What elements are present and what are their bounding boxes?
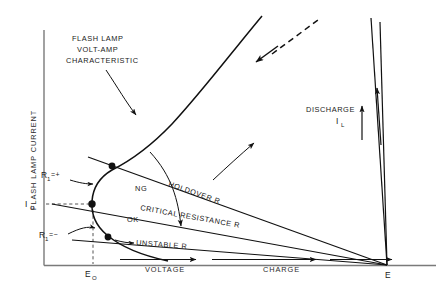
title-annotation: FLASH LAMP VOLT-AMP CHARACTERISTIC [66,34,139,65]
discharge-annotation: DISCHARGE I L [306,105,355,128]
discharge-current-base: I [336,116,339,126]
x-axis-endpoint-label: E [385,270,391,280]
e0-subscript: O [92,275,97,281]
discharge-line-group [362,18,387,265]
r1-positive-relation: =+ [51,171,60,178]
va-curve-dashed-extension [272,20,318,54]
title-line-3: CHARACTERISTIC [66,56,139,65]
upward-trend-arrow [213,143,254,180]
x-axis-label-voltage: VOLTAGE [145,265,185,274]
critical-resistance-load-line [52,204,387,265]
r1-negative-relation: =− [49,231,58,238]
title-line-1: FLASH LAMP [72,34,124,43]
flash-lamp-volt-amp-diagram: FLASH LAMP VOLT-AMP CHARACTERISTIC FLASH… [0,0,440,289]
discharge-line-outer [371,18,387,265]
discharge-current-subscript: L [341,122,345,128]
r1-positive-leader [70,180,93,184]
load-line-label-unstable: UNSTABLE R [136,238,188,251]
va-curve-arrowhead [256,46,278,62]
unstable-intersection-dot [105,234,112,241]
title-leader-arrow [106,70,136,115]
discharge-label: DISCHARGE [306,105,355,114]
y-axis-label: FLASH LAMP CURRENT [29,110,38,210]
i0-subscript: O [30,205,35,211]
volt-amp-characteristic-curve [92,16,318,261]
holdover-intersection-dot [109,163,116,170]
e0-base: E [85,269,91,279]
region-marker-ng: NG [135,184,147,193]
holdover-load-line [88,157,387,265]
load-line-group [52,157,387,265]
diagram-canvas: FLASH LAMP VOLT-AMP CHARACTERISTIC FLASH… [0,0,440,289]
unstable-load-line [72,240,387,265]
i0-base: I [25,199,28,209]
title-leader-path [106,70,136,115]
load-line-label-holdover: HOLDOVER R [167,179,221,205]
title-line-2: VOLT-AMP [77,45,118,54]
region-marker-ok: OK [127,215,139,224]
critical-intersection-dot [88,200,95,207]
r1-negative-leader [68,227,95,234]
tick-label-e0: E O [85,269,97,281]
x-axis-label-charge: CHARGE [263,265,300,274]
operating-point-dots [88,163,115,241]
resistance-marker-negative: R 1 =− [39,230,58,242]
r1-marker-leaders [68,180,134,243]
